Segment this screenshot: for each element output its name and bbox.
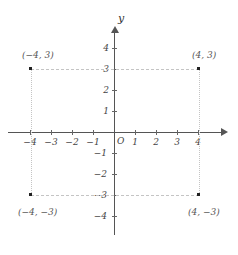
connector-bottom — [31, 195, 199, 196]
x-tick-mark — [177, 130, 178, 135]
x-tick-mark — [93, 130, 94, 135]
data-point — [29, 193, 32, 196]
y-tick-label: −2 — [89, 169, 107, 179]
point-label-top-right: (4, 3) — [192, 50, 216, 60]
point-label-bottom-left: (−4, −3) — [18, 207, 57, 217]
y-tick-mark — [112, 153, 117, 154]
x-axis-arrow-icon — [221, 128, 228, 136]
y-tick-mark — [112, 216, 117, 217]
y-tick-label: 4 — [91, 43, 109, 53]
y-axis-label: y — [118, 12, 124, 25]
x-tick-label: −4 — [20, 137, 40, 147]
y-tick-mark — [112, 174, 117, 175]
connector-left — [31, 69, 32, 195]
y-tick-mark — [112, 48, 117, 49]
connector-top — [31, 69, 199, 70]
x-tick-mark — [51, 130, 52, 135]
x-tick-label: 3 — [167, 137, 187, 147]
x-tick-mark — [156, 130, 157, 135]
x-tick-mark — [135, 130, 136, 135]
y-tick-mark — [112, 90, 117, 91]
y-tick-label: −4 — [89, 211, 107, 221]
coordinate-plane-diagram: y O −4 −3 −2 −1 1 2 3 4 4 3 2 1 −1 −2 −3… — [0, 0, 238, 255]
x-tick-label: 4 — [188, 137, 208, 147]
y-tick-label: −1 — [89, 148, 107, 158]
x-tick-label: −1 — [83, 137, 103, 147]
point-label-top-left: (−4, 3) — [22, 50, 54, 60]
x-tick-mark — [72, 130, 73, 135]
y-tick-mark — [112, 111, 117, 112]
point-label-bottom-right: (4, −3) — [188, 207, 220, 217]
data-point — [29, 67, 32, 70]
x-tick-label: 1 — [125, 137, 145, 147]
x-tick-label: −2 — [62, 137, 82, 147]
y-tick-label: 1 — [91, 106, 109, 116]
x-tick-label: 2 — [146, 137, 166, 147]
x-tick-label: −3 — [41, 137, 61, 147]
data-point — [197, 193, 200, 196]
connector-right — [199, 69, 200, 195]
origin-label: O — [117, 136, 124, 146]
y-axis-arrow-icon — [111, 26, 119, 33]
x-axis-line — [8, 132, 223, 133]
y-tick-label: 2 — [91, 85, 109, 95]
y-axis-line — [114, 31, 115, 235]
data-point — [197, 67, 200, 70]
